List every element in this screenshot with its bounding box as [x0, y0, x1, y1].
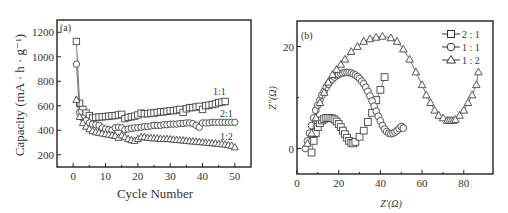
legend-item-2-1: 2 : 1 [442, 29, 480, 40]
impedance-chart-panel: 020406080020 (b) Z'(Ω) Z''(Ω) 2 : 1 1 : … [267, 21, 493, 210]
capacity-x-axis-label: Cycle Number [117, 186, 194, 201]
annotation-1-1: 1:1 [213, 86, 226, 97]
series-2-1 [73, 61, 238, 134]
panel-a-label: (a) [60, 22, 71, 34]
impedance-x-axis-label: Z'(Ω) [380, 198, 402, 210]
triangle-marker-icon [464, 99, 471, 106]
x-tick-label: 10 [100, 170, 112, 182]
triangle-marker-icon [431, 106, 438, 113]
panel-b-label: (b) [301, 30, 313, 42]
square-marker-icon [364, 119, 371, 126]
x-tick-label: 0 [294, 177, 300, 189]
circle-marker-icon [232, 119, 238, 125]
x-tick-label: 0 [70, 170, 76, 182]
triangle-marker-icon [418, 81, 425, 88]
capacity-y-axis-label: Capacity (mA · h · g⁻¹) [12, 34, 27, 156]
y-tick-label: 200 [38, 149, 55, 161]
triangle-marker-icon [423, 91, 430, 98]
x-tick-label: 20 [333, 177, 345, 189]
triangle-marker-icon [475, 68, 482, 75]
square-marker-icon [381, 74, 388, 81]
triangle-marker-icon [406, 55, 413, 62]
square-marker-icon [308, 149, 315, 156]
legend-item-1-1: 1 : 1 [442, 42, 480, 53]
square-marker-icon [310, 137, 317, 144]
y-tick-label: 600 [38, 100, 55, 112]
square-marker-icon [377, 86, 384, 93]
x-tick-label: 40 [197, 170, 209, 182]
circle-marker-icon [73, 61, 79, 67]
series-1-1 [73, 38, 228, 122]
y-tick-label: 1000 [32, 51, 55, 63]
x-tick-label: 80 [458, 177, 470, 189]
square-marker-icon [448, 31, 455, 38]
impedance-y-axis-label: Z''(Ω) [267, 85, 279, 109]
x-tick-label: 50 [229, 170, 241, 182]
y-tick-label: 800 [38, 75, 55, 87]
capacity-chart-panel: 0102030405020040060080010001200 (a) Cycl… [12, 20, 251, 201]
impedance-legend: 2 : 1 1 : 1 1 : 2 [442, 29, 480, 66]
y-tick-label: 0 [289, 143, 295, 155]
square-marker-icon [73, 38, 79, 44]
legend-item-1-2: 1 : 2 [442, 55, 480, 66]
annotation-1-2: 1:2 [220, 131, 233, 142]
legend-label: 2 : 1 [462, 29, 480, 40]
triangle-marker-icon [460, 106, 467, 113]
x-tick-label: 20 [132, 170, 144, 182]
y-tick-label: 20 [283, 41, 295, 53]
square-marker-icon [360, 127, 367, 134]
y-tick-label: 400 [38, 124, 55, 136]
circle-marker-icon [447, 43, 455, 51]
x-tick-label: 40 [375, 177, 387, 189]
x-tick-label: 60 [417, 177, 429, 189]
square-marker-icon [222, 98, 228, 104]
triangle-marker-icon [412, 68, 419, 75]
annotation-2-1: 2:1 [220, 108, 233, 119]
impedance-chart-series [302, 32, 482, 156]
triangle-marker-icon [379, 32, 386, 39]
triangle-marker-icon [427, 99, 434, 106]
circle-marker-icon [400, 125, 407, 132]
triangle-marker-icon [447, 56, 456, 64]
triangle-marker-icon [473, 81, 480, 88]
triangle-marker-icon [468, 91, 475, 98]
figure-canvas: 0102030405020040060080010001200 (a) Cycl… [0, 0, 508, 213]
legend-label: 1 : 1 [462, 42, 480, 53]
y-tick-label: 1200 [32, 26, 55, 38]
x-tick-label: 30 [165, 170, 177, 182]
legend-label: 1 : 2 [462, 55, 480, 66]
